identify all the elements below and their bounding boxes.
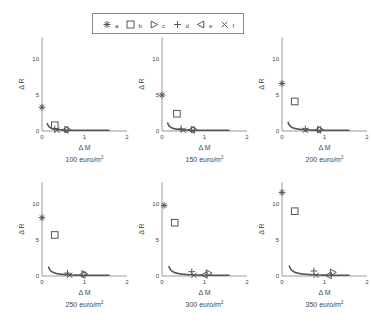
panel-6: 0120510Δ RΔ M350 euro/m2 bbox=[0, 0, 371, 323]
trade-off-curve bbox=[289, 266, 349, 276]
x-tick-label: 0 bbox=[280, 279, 284, 285]
y-tick-label: 0 bbox=[276, 273, 280, 279]
asterisk-marker-icon bbox=[279, 189, 286, 196]
y-tick-label: 10 bbox=[272, 201, 279, 207]
square-marker-icon bbox=[291, 208, 298, 215]
x-axis-label: Δ M bbox=[318, 289, 330, 296]
x-tick-label: 2 bbox=[365, 279, 369, 285]
y-tick-label: 5 bbox=[276, 237, 280, 243]
panel-title: 350 euro/m2 bbox=[306, 300, 344, 308]
x-tick-label: 1 bbox=[323, 279, 327, 285]
y-axis-label: Δ R bbox=[258, 224, 265, 235]
